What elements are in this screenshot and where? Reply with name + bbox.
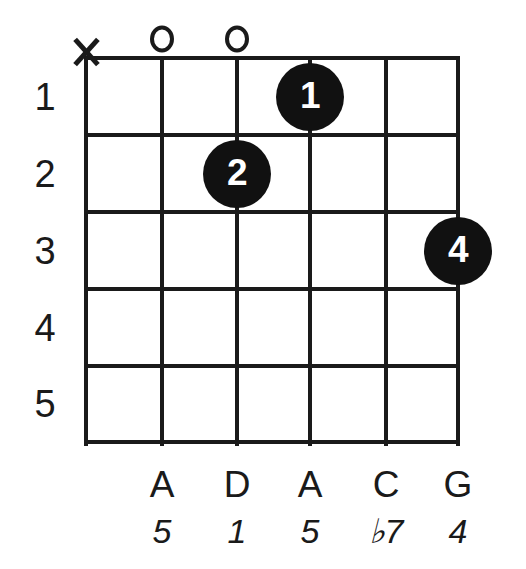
fret-number-3: 3 [18,232,72,270]
finger-number-label: 1 [300,77,320,116]
interval-label-string-2: 5 [127,514,197,548]
fret-line-4 [84,364,460,368]
chord-diagram: 12345 124 ADACG515♭74 [0,0,526,569]
string-line-1 [84,58,88,446]
finger-dot-4: 4 [424,217,492,285]
interval-label-string-6: 4 [423,514,493,548]
fret-line-1 [84,133,460,137]
note-name-string-4: A [275,466,345,503]
muted-string-icon [69,35,103,69]
note-name-string-3: D [202,466,272,503]
finger-number-label: 4 [448,231,468,270]
fret-line-3 [84,287,460,291]
note-name-string-6: G [423,466,493,503]
fret-line-2 [84,210,460,214]
string-line-2 [160,58,164,446]
fret-number-2: 2 [18,155,72,193]
fret-number-5: 5 [18,385,72,423]
finger-number-label: 2 [227,154,247,193]
interval-label-string-5: ♭7 [351,514,421,548]
interval-label-string-3: 1 [202,514,272,548]
note-name-string-5: C [351,466,421,503]
nut-line [84,56,460,60]
interval-label-string-4: 5 [275,514,345,548]
fret-number-1: 1 [18,78,72,116]
fret-line-5 [84,440,460,444]
fret-number-4: 4 [18,309,72,347]
string-line-3 [235,58,239,446]
open-string-icon [225,26,249,53]
note-name-string-2: A [127,466,197,503]
string-line-5 [384,58,388,446]
open-string-icon [150,26,174,53]
finger-dot-1: 1 [276,63,344,131]
finger-dot-2: 2 [203,140,271,208]
